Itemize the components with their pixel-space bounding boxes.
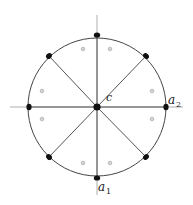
sector-marker-icon: [40, 89, 44, 93]
a1-label-main: a: [98, 180, 105, 194]
sector-marker-icon: [108, 161, 112, 165]
a1-label-sub: 1: [106, 187, 111, 196]
sector-marker-icon: [150, 89, 154, 93]
center-label: c: [106, 91, 112, 104]
vertex-point-top: [94, 32, 100, 37]
a2-label-main: a: [168, 93, 175, 107]
spoke-bottom-right: [97, 107, 146, 157]
vertex-point-left: [26, 104, 31, 110]
sector-marker-icon: [150, 117, 154, 121]
spoke-bottom-left: [49, 107, 97, 157]
sector-marker-icon: [81, 161, 85, 165]
sector-marker-icon: [81, 47, 85, 51]
a1-label: a 1: [98, 180, 111, 196]
spoke-top-left: [49, 56, 97, 107]
sector-marker-icon: [40, 117, 44, 121]
center-point: [93, 103, 100, 110]
spoke-top-right: [97, 56, 146, 107]
a2-label: a 2: [168, 93, 181, 109]
sector-diagram: c a 2 a 1: [0, 0, 193, 205]
a2-label-sub: 2: [176, 100, 181, 109]
sector-marker-icon: [108, 47, 112, 51]
